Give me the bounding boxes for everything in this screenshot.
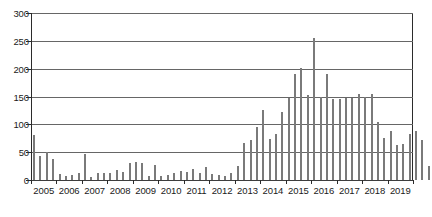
x-tick-label: 2015 bbox=[288, 185, 309, 196]
x-tick-mark bbox=[362, 180, 363, 184]
x-tick-label: 2006 bbox=[59, 185, 80, 196]
y-tick-mark bbox=[26, 69, 32, 70]
bar bbox=[154, 165, 156, 180]
bar bbox=[415, 131, 417, 180]
bar bbox=[288, 98, 290, 180]
x-tick-mark bbox=[184, 180, 185, 184]
bar bbox=[116, 170, 118, 180]
x-tick-mark bbox=[311, 180, 312, 184]
bar bbox=[39, 156, 41, 180]
bar bbox=[129, 163, 131, 180]
plot-area bbox=[31, 13, 413, 180]
x-tick-mark bbox=[209, 180, 210, 184]
bar bbox=[237, 166, 239, 180]
bar bbox=[52, 159, 54, 180]
x-tick-label: 2012 bbox=[212, 185, 233, 196]
x-tick-label: 2019 bbox=[390, 185, 411, 196]
bar bbox=[320, 97, 322, 181]
bar bbox=[199, 173, 201, 180]
x-tick-mark bbox=[413, 180, 414, 184]
x-tick-mark bbox=[107, 180, 108, 184]
x-tick-mark bbox=[260, 180, 261, 184]
bar bbox=[326, 74, 328, 180]
bar bbox=[46, 152, 48, 180]
bar bbox=[250, 140, 252, 180]
bar-series bbox=[31, 13, 413, 180]
x-axis-tickmarks bbox=[31, 180, 413, 184]
x-tick-label: 2011 bbox=[187, 185, 207, 196]
x-tick-mark bbox=[235, 180, 236, 184]
bar bbox=[262, 110, 264, 180]
y-tick-mark bbox=[26, 41, 32, 42]
bar bbox=[428, 166, 430, 180]
y-tick-mark bbox=[26, 13, 32, 14]
x-tick-label: 2018 bbox=[364, 185, 385, 196]
bar bbox=[396, 145, 398, 180]
x-tick-mark bbox=[337, 180, 338, 184]
y-tick-mark bbox=[26, 124, 32, 125]
bar bbox=[377, 122, 379, 180]
bar-chart: 050100150200250300 200520062007200820092… bbox=[0, 0, 432, 217]
x-tick-mark bbox=[158, 180, 159, 184]
bar bbox=[103, 173, 105, 180]
bar bbox=[269, 139, 271, 180]
bar bbox=[230, 173, 232, 180]
bar bbox=[281, 112, 283, 180]
bar bbox=[243, 143, 245, 180]
bar bbox=[78, 173, 80, 180]
bar bbox=[205, 167, 207, 180]
x-tick-mark bbox=[56, 180, 57, 184]
bar bbox=[364, 97, 366, 181]
x-tick-label: 2007 bbox=[84, 185, 105, 196]
bar bbox=[135, 162, 137, 180]
x-axis: 2005200620072008200920102011201220132014… bbox=[0, 185, 432, 201]
bar bbox=[409, 134, 411, 180]
bar bbox=[294, 74, 296, 180]
bar bbox=[383, 138, 385, 180]
x-tick-label: 2013 bbox=[237, 185, 258, 196]
x-tick-label: 2014 bbox=[263, 185, 284, 196]
bar bbox=[345, 98, 347, 180]
x-tick-label: 2009 bbox=[135, 185, 156, 196]
bar bbox=[390, 131, 392, 180]
x-tick-label: 2017 bbox=[339, 185, 360, 196]
bar bbox=[332, 99, 334, 180]
bar bbox=[300, 68, 302, 180]
bar bbox=[173, 173, 175, 180]
y-tick-mark bbox=[26, 97, 32, 98]
bar bbox=[84, 154, 86, 180]
bar bbox=[186, 172, 188, 180]
bar bbox=[371, 94, 373, 180]
x-tick-mark bbox=[388, 180, 389, 184]
bar bbox=[351, 98, 353, 180]
x-tick-label: 2010 bbox=[161, 185, 182, 196]
bar bbox=[275, 134, 277, 180]
x-tick-label: 2016 bbox=[313, 185, 334, 196]
bar bbox=[358, 94, 360, 180]
x-tick-mark bbox=[133, 180, 134, 184]
y-tick-mark bbox=[26, 152, 32, 153]
y-tick-mark bbox=[26, 180, 32, 181]
bar bbox=[256, 127, 258, 180]
bar bbox=[180, 171, 182, 180]
bar bbox=[97, 173, 99, 180]
bar bbox=[421, 140, 423, 180]
x-tick-mark bbox=[82, 180, 83, 184]
bar bbox=[122, 172, 124, 180]
bar bbox=[141, 163, 143, 180]
bar bbox=[109, 173, 111, 180]
bar bbox=[307, 95, 309, 180]
x-tick-label: 2008 bbox=[110, 185, 131, 196]
bar bbox=[339, 99, 341, 180]
bar bbox=[33, 135, 35, 180]
bar bbox=[313, 38, 315, 180]
x-tick-label: 2005 bbox=[33, 185, 54, 196]
x-tick-mark bbox=[286, 180, 287, 184]
bar bbox=[192, 169, 194, 180]
bar bbox=[402, 144, 404, 180]
